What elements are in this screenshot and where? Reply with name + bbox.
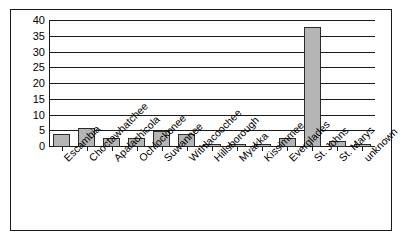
x-label-slot: Escambia (49, 151, 74, 229)
y-axis-tick-label: 5 (13, 125, 45, 136)
y-axis-tick-label: 25 (13, 62, 45, 73)
x-label-slot: Kissimmee (250, 151, 275, 229)
x-label-slot: Everglades (275, 151, 300, 229)
bar[interactable] (53, 134, 70, 147)
x-label-slot: St. Johns (300, 151, 325, 229)
x-label-slot: unknown (350, 151, 375, 229)
x-axis-category-labels: EscambiaChoctawhatcheeApalachicolaOchloc… (49, 151, 375, 229)
x-label-slot: St. Marys (325, 151, 350, 229)
y-axis-tick-label: 10 (13, 110, 45, 121)
y-axis-tick-label: 20 (13, 78, 45, 89)
x-label-slot: Withlacoochee (174, 151, 199, 229)
bar-slot (49, 20, 74, 147)
y-axis-tick-label: 40 (13, 15, 45, 26)
y-axis-tick-labels: 4035302520151050 (11, 20, 45, 147)
y-axis-tick-label: 0 (13, 141, 45, 152)
x-label-slot: Choctawhatchee (74, 151, 99, 229)
y-axis-tick-label: 15 (13, 94, 45, 105)
x-label-slot: Ochlockonee (124, 151, 149, 229)
x-label-slot: Suwannee (149, 151, 174, 229)
x-label-slot: Apalachicola (99, 151, 124, 229)
chart-frame: 4035302520151050 EscambiaChoctawhatcheeA… (10, 9, 392, 231)
y-axis-tick-label: 35 (13, 31, 45, 42)
y-axis-tick-label: 30 (13, 47, 45, 58)
x-label-slot: Myakka (225, 151, 250, 229)
x-label-slot: Hillsborough (199, 151, 224, 229)
